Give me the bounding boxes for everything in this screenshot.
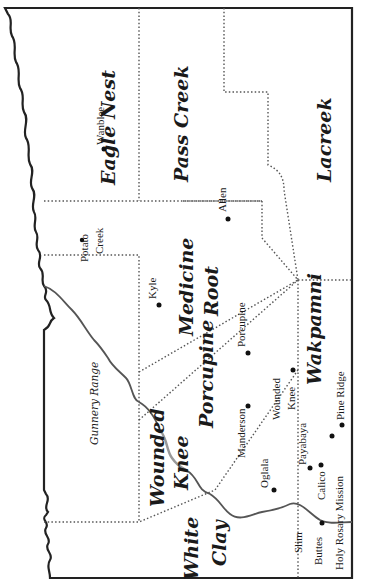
town-dot-pine-ridge bbox=[340, 423, 345, 428]
gunnery-range-label: Gunnery Range bbox=[88, 362, 100, 445]
town-dot-oglala bbox=[272, 488, 277, 493]
district-label-porcupine: Porcupine bbox=[195, 320, 217, 429]
town-label-buttes: Buttes bbox=[312, 537, 324, 565]
town-dot-manderson bbox=[246, 404, 251, 409]
town-dot-holy-rosary-mission bbox=[330, 434, 335, 439]
district-label-knee: Knee bbox=[170, 435, 192, 491]
reservation-map: Eagle Nest Pass Creek Lacreek Medicine R… bbox=[0, 0, 370, 585]
district-label-white: White bbox=[180, 517, 202, 580]
town-dot-calico bbox=[319, 463, 324, 468]
town-label-potato: Potato bbox=[78, 233, 90, 262]
town-label-kyle: Kyle bbox=[146, 278, 158, 300]
town-label-payabaya: Payabaya bbox=[296, 423, 308, 465]
town-label-wounded: Wounded bbox=[270, 378, 282, 420]
town-dot-wounded-knee bbox=[291, 368, 296, 373]
town-dot-wanblee bbox=[102, 147, 107, 152]
district-label-medicine: Medicine bbox=[175, 238, 197, 337]
town-dot-porcupine bbox=[246, 351, 251, 356]
district-label-pass-creek: Pass Creek bbox=[170, 65, 192, 183]
town-label-holy-rosary-mission: Holy Rosary Mission bbox=[333, 475, 345, 570]
town-label-knee: Knee bbox=[285, 387, 297, 410]
town-dot-slim-buttes bbox=[320, 521, 325, 526]
town-label-oglala: Oglala bbox=[258, 459, 270, 488]
town-label-creek: Creek bbox=[93, 227, 105, 254]
district-label-wakpamni: Wakpamni bbox=[303, 273, 325, 385]
town-label-wanblee: Wanblee bbox=[94, 107, 106, 145]
town-dot-payabaya bbox=[308, 466, 313, 471]
town-label-slim: Slim bbox=[292, 532, 304, 553]
town-label-allen: Allen bbox=[216, 187, 228, 212]
district-label-clay: Clay bbox=[208, 518, 230, 566]
district-label-lacreek: Lacreek bbox=[313, 97, 335, 183]
town-label-pine-ridge: Pine Ridge bbox=[334, 371, 346, 420]
district-label-wounded: Wounded bbox=[146, 408, 168, 507]
town-label-calico: Calico bbox=[315, 471, 327, 500]
town-label-manderson: Manderson bbox=[235, 408, 247, 458]
town-label-porcupine: Porcupine bbox=[235, 302, 247, 347]
town-dot-allen bbox=[226, 217, 231, 222]
district-label-root: Root bbox=[200, 266, 222, 317]
town-dot-kyle bbox=[157, 303, 162, 308]
